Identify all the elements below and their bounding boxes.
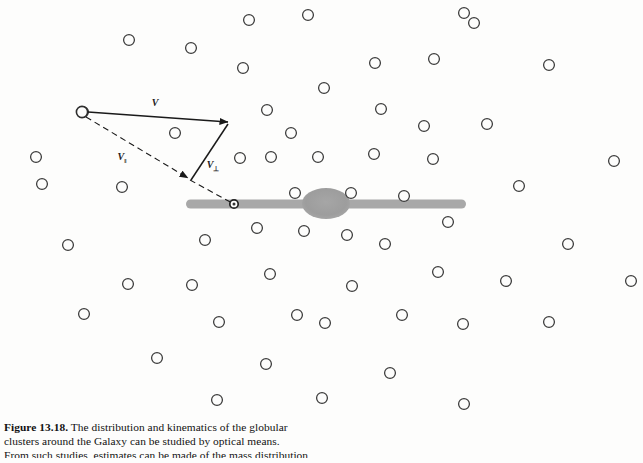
globular-cluster <box>369 149 380 160</box>
globular-cluster <box>123 279 134 290</box>
globular-cluster <box>433 267 444 278</box>
figure-caption: Figure 13.18. The distribution and kinem… <box>4 420 330 458</box>
figure-illustration: V V‖ V⊥ <box>0 0 643 415</box>
globular-cluster <box>342 230 353 241</box>
globular-cluster <box>31 152 42 163</box>
globular-cluster <box>563 239 574 250</box>
globular-cluster <box>459 8 470 19</box>
globular-cluster <box>235 153 246 164</box>
label-velocity-parallel-subscript: ‖ <box>124 157 126 165</box>
globular-cluster <box>37 179 48 190</box>
globular-cluster <box>262 105 273 116</box>
globular-cluster <box>482 119 493 130</box>
globular-cluster <box>186 43 197 54</box>
globular-cluster <box>376 104 387 115</box>
globular-cluster <box>212 395 223 406</box>
globular-cluster <box>469 18 480 29</box>
globular-cluster <box>544 60 555 71</box>
globular-cluster <box>626 276 637 287</box>
globular-cluster <box>346 188 357 199</box>
globular-cluster <box>124 35 135 46</box>
globular-cluster <box>303 10 314 21</box>
caption-line-1: Figure 13.18. The distribution and kinem… <box>4 420 330 434</box>
globular-cluster <box>544 317 555 328</box>
figure-number: Figure 13.18. <box>4 421 68 433</box>
label-velocity-perp-subscript: ⊥ <box>213 165 219 173</box>
globular-cluster <box>252 223 263 234</box>
globular-cluster <box>200 235 211 246</box>
globular-cluster <box>458 319 469 330</box>
globular-cluster <box>238 63 249 74</box>
figure-page: V V‖ V⊥ Figure 13.18. The distribution a… <box>0 0 643 463</box>
sun-position-dot <box>233 203 236 206</box>
caption-text-1: The distribution and kinematics of the g… <box>71 421 288 433</box>
globular-cluster <box>286 128 297 139</box>
globular-cluster <box>290 188 301 199</box>
globular-cluster <box>214 317 225 328</box>
globular-cluster <box>501 276 512 287</box>
globular-cluster <box>63 240 74 251</box>
globular-cluster <box>320 318 331 329</box>
globular-cluster <box>443 217 454 228</box>
globular-cluster <box>117 182 128 193</box>
globular-cluster <box>609 156 620 167</box>
globular-cluster <box>152 353 163 364</box>
caption-line-3: From such studies, estimates can be made… <box>4 448 330 458</box>
globular-cluster <box>244 15 255 26</box>
globular-cluster-diagram: V V‖ V⊥ <box>0 0 643 415</box>
globular-cluster <box>170 128 181 139</box>
caption-line-2: clusters around the Galaxy can be studie… <box>4 434 330 448</box>
globular-cluster <box>319 83 330 94</box>
globular-cluster <box>514 181 525 192</box>
origin-globular-cluster <box>76 106 87 117</box>
globular-cluster <box>459 399 470 410</box>
globular-cluster <box>370 58 381 69</box>
globular-cluster <box>79 309 90 320</box>
galactic-bulge <box>302 188 350 219</box>
globular-cluster <box>261 359 272 370</box>
globular-cluster <box>187 280 198 291</box>
globular-cluster <box>317 393 328 404</box>
globular-cluster <box>399 191 410 202</box>
globular-cluster <box>313 152 324 163</box>
globular-cluster <box>397 310 408 321</box>
globular-cluster <box>419 121 430 132</box>
globular-cluster <box>299 226 310 237</box>
globular-cluster <box>292 310 303 321</box>
globular-cluster <box>385 368 396 379</box>
globular-cluster <box>266 152 277 163</box>
globular-cluster <box>380 239 391 250</box>
globular-cluster <box>347 281 358 292</box>
globular-cluster <box>429 54 440 65</box>
globular-cluster <box>428 154 439 165</box>
globular-cluster <box>265 269 276 280</box>
